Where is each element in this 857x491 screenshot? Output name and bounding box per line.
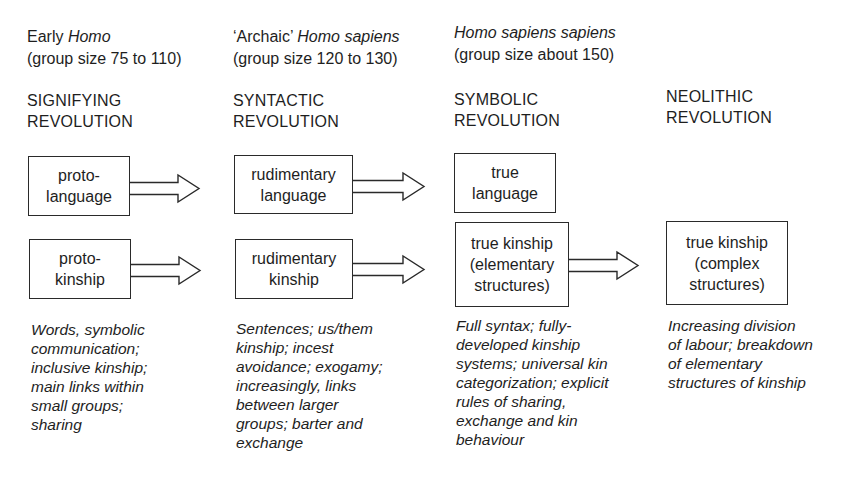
col2-revolution: SYNTACTIC REVOLUTION [233,90,339,132]
col4-revolution: NEOLITHIC REVOLUTION [666,86,772,128]
box-line: language [46,186,112,207]
arrow-right-icon [130,174,200,204]
col2-group-size: (group size 120 to 130) [233,48,398,70]
description-line: rules of sharing, [456,392,609,411]
revolution-name: SYNTACTIC [233,90,339,111]
box-line: (elementary [470,254,554,275]
description-line: systems; universal kin [456,354,609,373]
description-line: Full syntax; fully- [456,316,609,335]
col1-group-size: (group size 75 to 110) [27,48,181,70]
description-line: between larger [236,395,382,414]
description-line: increasingly, links [236,376,382,395]
box-rudimentary-kinship: rudimentary kinship [235,239,353,299]
description-line: of elementary [668,354,813,373]
box-line: structures) [474,275,550,296]
box-line: structures) [689,274,765,295]
arrow-right-icon [131,256,201,286]
revolution-word: REVOLUTION [27,111,133,132]
description-line: communication; [31,339,147,358]
description-line: categorization; explicit [456,373,609,392]
species-italic: Homo sapiens [297,28,399,45]
box-line: language [472,183,538,204]
col3-group-size: (group size about 150) [454,44,614,66]
description-line: inclusive kinship; [31,358,147,377]
description-line: Increasing division [668,316,813,335]
col3-species: Homo sapiens sapiens [454,22,616,44]
col2-species: ‘Archaic’ Homo sapiens [233,26,400,48]
species-prefix: Early [27,28,68,45]
species-italic: Homo sapiens sapiens [454,24,616,41]
arrow-right-icon [353,255,425,285]
description-line: sharing [31,415,147,434]
description-line: Sentences; us/them [236,319,382,338]
box-line: kinship [269,269,319,290]
description-line: exchange [236,433,382,452]
description-line: behaviour [456,430,609,449]
species-italic: Homo [68,28,111,45]
description-line: small groups; [31,396,147,415]
box-true-language: true language [454,153,556,213]
box-line: proto- [59,248,101,269]
col3-description: Full syntax; fully- developed kinship sy… [456,316,609,449]
description-line: developed kinship [456,335,609,354]
box-line: kinship [55,269,105,290]
box-proto-kinship: proto- kinship [29,239,131,299]
description-line: kinship; incest [236,338,382,357]
col2-description: Sentences; us/them kinship; incest avoid… [236,319,382,452]
box-rudimentary-language: rudimentary language [234,155,353,214]
box-true-kinship-elementary: true kinship (elementary structures) [455,222,569,307]
description-line: structures of kinship [668,373,813,392]
revolution-name: SIGNIFYING [27,90,133,111]
col1-species: Early Homo [27,26,111,48]
col1-description: Words, symbolic communication; inclusive… [31,320,147,434]
revolution-name: SYMBOLIC [454,89,560,110]
description-line: exchange and kin [456,411,609,430]
description-line: Words, symbolic [31,320,147,339]
revolution-name: NEOLITHIC [666,86,772,107]
box-line: (complex [695,253,760,274]
description-line: of labour; breakdown [668,335,813,354]
box-line: rudimentary [252,248,336,269]
description-line: groups; barter and [236,414,382,433]
col3-revolution: SYMBOLIC REVOLUTION [454,89,560,131]
box-line: true [491,162,519,183]
box-proto-language: proto- language [28,156,130,216]
box-line: true kinship [686,232,768,253]
col4-description: Increasing division of labour; breakdown… [668,316,813,392]
arrow-right-icon [569,251,639,281]
revolution-word: REVOLUTION [454,110,560,131]
species-prefix: ‘Archaic’ [233,28,297,45]
box-true-kinship-complex: true kinship (complex structures) [666,221,788,305]
box-line: true kinship [471,233,553,254]
revolution-word: REVOLUTION [666,107,772,128]
box-line: proto- [58,165,100,186]
col1-revolution: SIGNIFYING REVOLUTION [27,90,133,132]
description-line: avoidance; exogamy; [236,357,382,376]
description-line: main links within [31,377,147,396]
box-line: language [261,185,327,206]
revolution-word: REVOLUTION [233,111,339,132]
box-line: rudimentary [251,164,335,185]
arrow-right-icon [353,172,425,202]
